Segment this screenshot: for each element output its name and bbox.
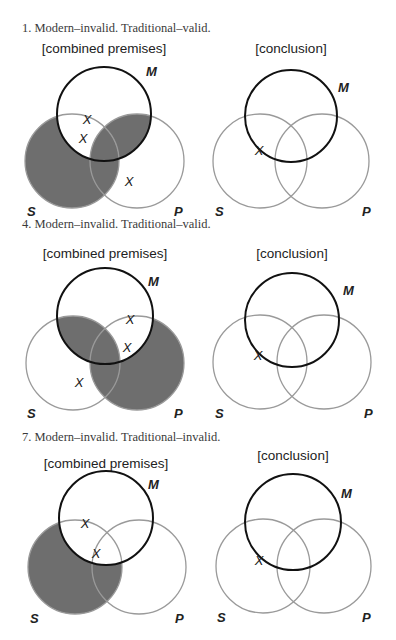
label-p: P	[174, 406, 183, 421]
conclusion-title: [conclusion]	[257, 448, 328, 463]
conclusion-title: [conclusion]	[256, 246, 327, 261]
x-mark: X	[78, 131, 89, 146]
x-mark: X	[74, 375, 85, 390]
label-p: P	[175, 611, 184, 626]
label-s: S	[215, 406, 224, 421]
x-mark: X	[91, 546, 102, 561]
label-s: S	[217, 610, 226, 625]
x-mark: X	[125, 312, 136, 327]
label-m: M	[343, 283, 355, 298]
label-s: S	[27, 406, 36, 421]
label-m: M	[148, 477, 160, 492]
label-m: M	[146, 64, 158, 79]
label-s: S	[215, 204, 224, 219]
conclusion-title: [conclusion]	[255, 41, 326, 56]
x-mark: X	[82, 112, 93, 127]
x-mark: X	[254, 553, 265, 568]
problem-caption: 7. Modern–invalid. Traditional–invalid.	[22, 430, 220, 444]
label-p: P	[362, 610, 371, 625]
problem-caption: 1. Modern–invalid. Traditional–valid.	[22, 21, 211, 35]
venn-diagram-page: 1. Modern–invalid. Traditional–valid.[co…	[0, 0, 396, 640]
label-s: S	[30, 611, 39, 626]
label-p: P	[362, 204, 371, 219]
x-mark: X	[122, 340, 133, 355]
x-mark: X	[80, 516, 91, 531]
x-mark: X	[253, 348, 264, 363]
x-mark: X	[124, 174, 135, 189]
label-m: M	[338, 80, 350, 95]
x-mark: X	[254, 143, 265, 158]
label-p: P	[364, 406, 373, 421]
label-m: M	[341, 486, 353, 501]
problem-caption: 4. Modern–invalid. Traditional–valid.	[22, 217, 211, 231]
premises-title: [combined premises]	[43, 246, 168, 261]
premises-title: [combined premises]	[44, 456, 169, 471]
label-m: M	[148, 274, 160, 289]
premises-title: [combined premises]	[42, 41, 167, 56]
